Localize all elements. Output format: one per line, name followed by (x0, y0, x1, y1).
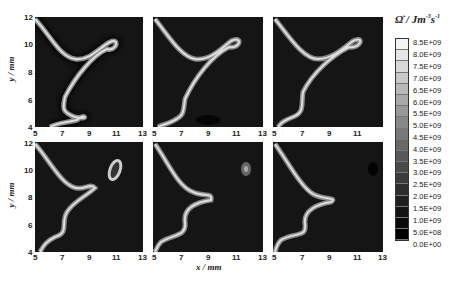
y-tick: 10 (24, 40, 33, 49)
flame-front-curve (153, 17, 263, 127)
flame-front-curve (273, 142, 383, 252)
colorbar-label: 6.0E+09 (413, 98, 441, 107)
colorbar-label: 7.0E+09 (413, 74, 441, 83)
y-tick: 8 (28, 193, 32, 202)
flame-front-curve (273, 17, 383, 127)
colorbar-label: 5.0E+09 (413, 121, 441, 130)
colorbar-label: 5.0E+08 (413, 228, 441, 237)
flame-front-curve (35, 142, 143, 252)
colorbar-title-main: Ω̇ / Jm (395, 13, 426, 25)
y-tick: 12 (24, 139, 33, 148)
y-tick: 6 (28, 96, 32, 105)
x-tick: 9 (206, 253, 210, 262)
panel-r2c1 (35, 142, 143, 252)
x-tick: 5 (272, 253, 276, 262)
x-tick: 7 (60, 129, 64, 138)
y-axis-label-bottom: y / mm (6, 183, 16, 208)
x-tick: 9 (327, 253, 331, 262)
colorbar-label: 2.0E+09 (413, 192, 441, 201)
x-tick: 13 (378, 253, 387, 262)
x-tick: 7 (179, 253, 183, 262)
x-tick: 11 (353, 253, 361, 262)
y-tick: 4 (28, 248, 32, 257)
x-tick: 13 (138, 129, 147, 138)
x-tick: 9 (87, 253, 91, 262)
colorbar-label: 3.0E+09 (413, 168, 441, 177)
x-tick: 13 (258, 129, 267, 138)
x-tick: 11 (112, 253, 120, 262)
y-tick: 8 (28, 68, 32, 77)
colorbar-title: Ω̇ / Jm-3s-1 (395, 13, 440, 25)
x-tick: 11 (353, 129, 361, 138)
panel-r2c2 (153, 142, 263, 252)
y-tick: 4 (28, 123, 32, 132)
x-axis-label: x / mm (196, 262, 222, 272)
x-tick: 11 (232, 253, 240, 262)
x-tick: 5 (33, 253, 37, 262)
x-tick: 9 (327, 129, 331, 138)
x-tick: 5 (152, 129, 156, 138)
x-tick: 7 (60, 253, 64, 262)
colorbar-label: 8.0E+09 (413, 50, 441, 59)
x-tick: 5 (152, 253, 156, 262)
x-tick: 9 (87, 129, 91, 138)
panel-r2c3 (273, 142, 383, 252)
x-tick: 11 (112, 129, 120, 138)
colorbar-title-exp2: -1 (435, 13, 440, 19)
x-tick: 7 (300, 129, 304, 138)
colorbar-label: 4.0E+09 (413, 145, 441, 154)
colorbar-label: 1.0E+09 (413, 216, 441, 225)
colorbar-label: 0.0E+00 (413, 240, 441, 249)
flame-front-curve (35, 17, 143, 127)
y-tick: 10 (24, 166, 33, 175)
x-tick: 13 (138, 253, 147, 262)
x-tick: 9 (206, 129, 210, 138)
panel-r1c2 (153, 17, 263, 127)
flame-front-curve (153, 142, 263, 252)
y-axis-label-top: y / mm (6, 57, 16, 82)
x-tick: 7 (300, 253, 304, 262)
colorbar-label: 2.5E+09 (413, 180, 441, 189)
colorbar-label: 8.5E+09 (413, 38, 441, 47)
x-tick: 7 (179, 129, 183, 138)
y-tick: 12 (24, 13, 33, 22)
colorbar-label: 5.5E+09 (413, 109, 441, 118)
panel-r1c3 (273, 17, 383, 127)
colorbar-label: 6.5E+09 (413, 86, 441, 95)
x-tick: 11 (232, 129, 240, 138)
x-tick: 5 (272, 129, 276, 138)
y-tick: 6 (28, 221, 32, 230)
colorbar (395, 38, 409, 241)
panel-r1c1 (35, 17, 143, 127)
x-tick: 13 (258, 253, 267, 262)
colorbar-label: 1.5E+09 (413, 204, 441, 213)
x-tick: 5 (33, 129, 37, 138)
colorbar-label: 7.5E+09 (413, 62, 441, 71)
colorbar-label: 3.5E+09 (413, 157, 441, 166)
colorbar-label: 4.5E+09 (413, 133, 441, 142)
